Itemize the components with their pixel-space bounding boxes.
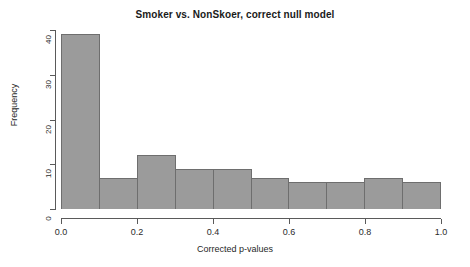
- histogram-bar: [288, 182, 327, 209]
- x-tick-label: 0.6: [269, 227, 309, 237]
- chart-title: Smoker vs. NonSkoer, correct null model: [0, 9, 470, 20]
- x-tick-label: 0.8: [345, 227, 385, 237]
- histogram-bar: [175, 169, 214, 209]
- x-tick-label: 0.4: [193, 227, 233, 237]
- y-tick-label-wrap: 40: [26, 25, 48, 35]
- x-tick-mark: [213, 219, 214, 224]
- y-tick-label: 20: [44, 119, 53, 139]
- x-tick-mark: [365, 219, 366, 224]
- x-tick-mark: [441, 219, 442, 224]
- histogram-bar: [251, 178, 290, 209]
- y-tick-label: 40: [44, 30, 53, 50]
- y-axis-line: [55, 30, 56, 210]
- x-tick-mark: [137, 219, 138, 224]
- x-tick-label: 1.0: [421, 227, 461, 237]
- y-tick-label-wrap: 0: [26, 204, 48, 214]
- y-tick-label-wrap: 30: [26, 70, 48, 80]
- y-tick-label-wrap: 20: [26, 115, 48, 125]
- histogram-figure: Smoker vs. NonSkoer, correct null model …: [0, 0, 470, 267]
- y-tick-label-wrap: 10: [26, 159, 48, 169]
- x-axis-line: [61, 218, 441, 219]
- histogram-bars: [61, 30, 441, 209]
- x-tick-mark: [61, 219, 62, 224]
- x-tick-label: 0.2: [117, 227, 157, 237]
- histogram-bar: [99, 178, 138, 209]
- x-tick-label: 0.0: [41, 227, 81, 237]
- y-axis-title: Frequency: [9, 70, 19, 140]
- histogram-bar: [364, 178, 403, 209]
- histogram-bar: [61, 34, 100, 209]
- histogram-bar: [402, 182, 441, 209]
- y-tick-label: 10: [44, 164, 53, 184]
- histogram-bar: [213, 169, 252, 209]
- y-tick-label: 0: [44, 209, 53, 229]
- plot-area: [61, 30, 441, 209]
- histogram-bar: [326, 182, 365, 209]
- histogram-bar: [137, 155, 176, 209]
- x-axis-title: Corrected p-values: [0, 244, 470, 254]
- x-tick-mark: [289, 219, 290, 224]
- y-tick-label: 30: [44, 74, 53, 94]
